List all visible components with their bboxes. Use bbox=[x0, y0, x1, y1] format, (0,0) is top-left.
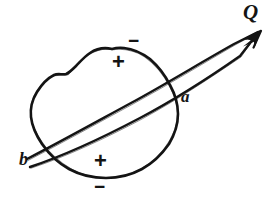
point-label-b: b bbox=[19, 150, 28, 168]
beam-lower-edge bbox=[30, 33, 258, 167]
sign-plus-interior-top: + bbox=[112, 51, 125, 73]
sign-minus-exterior-top: − bbox=[128, 31, 139, 50]
point-label-a: a bbox=[181, 88, 190, 105]
arrowhead-group bbox=[243, 31, 261, 49]
diagram-canvas: Q a b − + + − bbox=[0, 0, 276, 204]
beam-group bbox=[27, 32, 258, 168]
sign-minus-exterior-bottom: − bbox=[94, 177, 105, 196]
sign-plus-interior-bottom: + bbox=[94, 150, 107, 172]
beam-upper-edge bbox=[27, 32, 258, 159]
point-label-q: Q bbox=[243, 2, 258, 23]
